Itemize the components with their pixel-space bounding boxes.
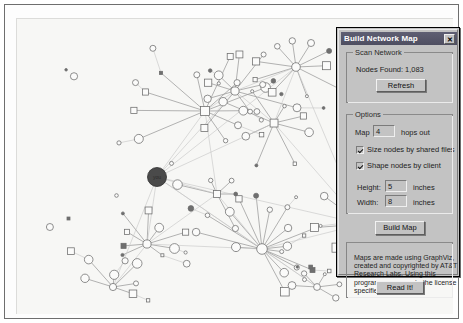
graph-node[interactable]: [311, 224, 319, 232]
graph-node[interactable]: [214, 191, 221, 198]
graph-node[interactable]: [234, 80, 240, 86]
graph-node[interactable]: [267, 207, 272, 212]
graph-node[interactable]: [170, 244, 180, 254]
graph-node[interactable]: [309, 265, 313, 269]
graph-node[interactable]: [188, 206, 194, 212]
graph-node[interactable]: [201, 107, 210, 116]
graph-node[interactable]: [161, 254, 164, 257]
graph-node[interactable]: [283, 104, 287, 108]
graph-node[interactable]: [208, 69, 212, 73]
graph-node[interactable]: [320, 192, 328, 200]
shape-nodes-checkbox-row[interactable]: Shape nodes by client: [356, 161, 441, 170]
graph-node[interactable]: [67, 217, 70, 220]
graph-node[interactable]: [261, 52, 266, 57]
graph-node[interactable]: [231, 87, 239, 95]
graph-node[interactable]: [155, 223, 164, 232]
graph-node[interactable]: [236, 196, 242, 202]
graph-node[interactable]: [173, 180, 183, 190]
graph-node[interactable]: [205, 213, 210, 218]
graph-node[interactable]: [117, 141, 121, 145]
graph-node[interactable]: [285, 205, 290, 210]
graph-node[interactable]: [280, 92, 283, 95]
graph-node[interactable]: [322, 107, 325, 110]
graph-node[interactable]: [289, 38, 295, 44]
graph-node[interactable]: [129, 290, 137, 298]
size-nodes-checkbox-row[interactable]: Size nodes by shared files: [356, 145, 455, 154]
check-icon-size-nodes[interactable]: [356, 146, 364, 154]
graph-node[interactable]: [323, 273, 326, 276]
refresh-button[interactable]: Refresh: [376, 79, 426, 92]
graph-node[interactable]: [251, 90, 254, 93]
graph-node[interactable]: [132, 259, 142, 269]
graph-node[interactable]: [115, 194, 119, 198]
graph-node[interactable]: [234, 192, 238, 196]
graph-node[interactable]: [337, 282, 342, 287]
graph-node[interactable]: [205, 79, 212, 86]
graph-node[interactable]: [242, 132, 250, 140]
graph-node[interactable]: [46, 224, 53, 231]
graph-node[interactable]: [183, 229, 189, 235]
graph-node[interactable]: [81, 274, 89, 282]
graph-node[interactable]: [319, 224, 322, 227]
graph-node[interactable]: [229, 178, 234, 183]
graph-node[interactable]: [288, 282, 296, 290]
graph-node[interactable]: [308, 40, 315, 47]
graph-node[interactable]: [270, 119, 278, 127]
graph-node[interactable]: [303, 278, 307, 282]
build-map-button[interactable]: Build Map: [375, 221, 425, 235]
graph-node[interactable]: [295, 196, 298, 199]
graph-node[interactable]: [271, 79, 276, 84]
graph-node[interactable]: [254, 109, 260, 115]
graph-node[interactable]: [147, 299, 150, 302]
graph-node[interactable]: [293, 104, 301, 112]
close-icon[interactable]: ✕: [444, 34, 455, 44]
graph-node[interactable]: [209, 178, 213, 182]
graph-node[interactable]: [284, 224, 291, 231]
graph-node[interactable]: [303, 234, 306, 237]
graph-node[interactable]: [236, 51, 243, 58]
graph-node[interactable]: [259, 118, 263, 122]
read-it-button[interactable]: Read It!: [376, 281, 424, 294]
graph-node[interactable]: [125, 229, 130, 234]
graph-node[interactable]: [305, 128, 314, 137]
graph-node[interactable]: [235, 122, 242, 129]
graph-node[interactable]: [227, 54, 233, 60]
graph-node[interactable]: [280, 268, 289, 277]
graph-node[interactable]: [248, 109, 253, 114]
graph-node[interactable]: [170, 161, 174, 165]
graph-node[interactable]: [145, 207, 152, 214]
graph-node[interactable]: [253, 58, 260, 65]
graph-node[interactable]: [333, 295, 339, 301]
graph-node[interactable]: [301, 271, 306, 276]
graph-node[interactable]: [219, 98, 227, 106]
graph-node[interactable]: [275, 44, 281, 50]
graph-node[interactable]: [84, 255, 93, 264]
graph-node[interactable]: [293, 162, 297, 166]
graph-node[interactable]: [283, 242, 291, 250]
graph-node[interactable]: [183, 260, 190, 267]
graph-node[interactable]: [225, 207, 234, 216]
graph-node[interactable]: [204, 95, 211, 102]
graph-node[interactable]: [327, 48, 332, 53]
graph-node[interactable]: [254, 193, 259, 198]
graph-node[interactable]: [300, 113, 306, 119]
graph-node[interactable]: [142, 89, 148, 95]
graph-node[interactable]: [110, 270, 119, 279]
graph-node[interactable]: [314, 284, 321, 291]
graph-node[interactable]: [305, 95, 308, 98]
graph-node[interactable]: [214, 71, 223, 80]
graph-node[interactable]: [257, 244, 268, 255]
check-icon-shape-nodes[interactable]: [356, 162, 364, 170]
graph-node[interactable]: [121, 243, 126, 248]
graph-node[interactable]: [201, 125, 208, 132]
graph-node[interactable]: [131, 107, 137, 113]
graph-node[interactable]: [68, 248, 75, 255]
graph-node[interactable]: [280, 250, 284, 254]
graph-node[interactable]: [134, 281, 139, 286]
graph-node[interactable]: [134, 134, 143, 143]
graph-node[interactable]: [184, 251, 187, 254]
graph-node[interactable]: [122, 258, 128, 264]
graph-node[interactable]: [281, 287, 290, 296]
graph-node[interactable]: [255, 164, 258, 167]
graph-node[interactable]: [296, 266, 298, 268]
